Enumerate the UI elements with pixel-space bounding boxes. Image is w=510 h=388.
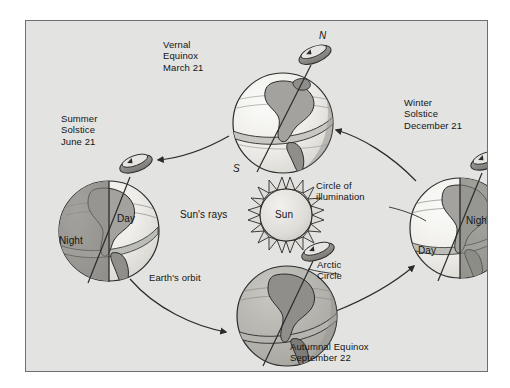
label-night-left: Night	[59, 235, 83, 246]
label-circle-of-illumination-line2: illumination	[316, 191, 365, 202]
label-sun: Sun	[275, 209, 293, 220]
label-summer-solstice-line1: Summer	[61, 113, 98, 124]
label-earths-orbit: Earth's orbit	[149, 272, 201, 283]
label-vernal-equinox: Vernal Equinox March 21	[163, 39, 203, 73]
vernal-equinox-globe	[233, 41, 334, 174]
label-summer-solstice: Summer Solstice June 21	[61, 113, 98, 147]
orbit-arrow-autumnal-to-winter	[336, 266, 414, 311]
label-summer-solstice-line2: Solstice	[61, 124, 98, 135]
label-winter-solstice: Winter Solstice December 21	[404, 97, 462, 131]
label-summer-solstice-line3: June 21	[61, 136, 98, 147]
label-north-pole: N	[319, 30, 326, 41]
label-circle-of-illumination-line1: Circle of	[316, 180, 365, 191]
label-circle-of-illumination: Circle of illumination	[316, 180, 365, 203]
label-winter-solstice-line1: Winter	[404, 97, 462, 108]
label-arctic-circle-line2: Circle	[317, 270, 342, 281]
label-night-right: Night	[466, 215, 488, 226]
label-suns-rays: Sun's rays	[180, 209, 227, 220]
label-autumnal-equinox-line2: September 22	[290, 352, 369, 363]
orbit-arrow-winter-to-vernal	[336, 130, 416, 181]
diagram-frame: Vernal Equinox March 21 Summer Solstice …	[25, 20, 488, 372]
summer-solstice-globe	[46, 150, 159, 288]
label-vernal-equinox-line1: Vernal	[163, 39, 203, 50]
summer-rotation-ring	[117, 150, 154, 177]
label-vernal-equinox-line3: March 21	[163, 62, 203, 73]
label-day-right: Day	[418, 245, 436, 256]
label-arctic-circle: Arctic Circle	[317, 259, 342, 282]
label-arctic-circle-line1: Arctic	[317, 259, 342, 270]
label-winter-solstice-line3: December 21	[404, 120, 462, 131]
orbit-arrow-summer-to-autumnal	[130, 279, 226, 332]
label-autumnal-equinox: Autumnal Equinox September 22	[290, 341, 369, 364]
figure-root: Vernal Equinox March 21 Summer Solstice …	[0, 0, 510, 388]
orbit-arrow-vernal-to-summer	[158, 136, 229, 160]
diagram-canvas	[26, 21, 488, 372]
vernal-rotation-ring	[296, 41, 334, 69]
label-vernal-equinox-line2: Equinox	[163, 50, 203, 61]
winter-rotation-ring	[468, 147, 488, 174]
label-day-left: Day	[117, 213, 135, 224]
label-winter-solstice-line2: Solstice	[404, 108, 462, 119]
label-south-pole: S	[233, 163, 240, 174]
label-autumnal-equinox-line1: Autumnal Equinox	[290, 341, 369, 352]
